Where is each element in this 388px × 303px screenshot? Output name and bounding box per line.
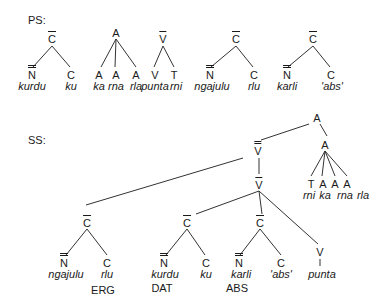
ps3-t-word: rni [170, 81, 182, 92]
ps3-v-word: punta [141, 81, 169, 92]
ss-verb-v: V [316, 247, 323, 258]
ps4-root: C [232, 34, 240, 45]
ps4-c-word: rlu [248, 81, 260, 92]
ps5-root: C [309, 34, 317, 45]
ss-affix-t-word: rni [303, 190, 315, 201]
ps3-root: V [159, 34, 166, 45]
ps-label: PS: [28, 14, 46, 26]
ss-abs-c-word: 'abs' [270, 269, 292, 280]
tree-edges [0, 0, 388, 303]
ss-erg-cbar: C [83, 218, 91, 229]
ss-abs-n-word: karli [231, 269, 251, 280]
ss-label: SS: [28, 134, 46, 146]
ss-root-a: A [313, 113, 320, 124]
ss-dat-c-word: ku [200, 269, 212, 280]
ps1-c-word: ku [65, 81, 77, 92]
ss-a-inner: A [321, 140, 328, 151]
ps2-root: A [112, 28, 119, 39]
ss-erg-n-word: ngajulu [48, 269, 83, 280]
ps2-a1-word: ka [93, 81, 105, 92]
ss-affix-a3: A [343, 179, 350, 190]
ps4-n-word: ngajulu [194, 81, 229, 92]
ss-dat-case: DAT [151, 283, 172, 294]
ss-erg-c-word: rlu [101, 269, 113, 280]
ss-verb-word: punta [308, 269, 336, 280]
ss-vbar2: V [254, 146, 261, 157]
ss-erg-case: ERG [91, 285, 115, 296]
ps2-a2-word: rna [108, 81, 124, 92]
ps1-n-word: kurdu [18, 81, 46, 92]
ss-dat-n-word: kurdu [151, 269, 179, 280]
ss-vbar1: V [255, 180, 262, 191]
ps5-n-word: karli [277, 81, 297, 92]
ss-abs-cbar: C [256, 218, 264, 229]
ss-affix-a2-word: rna [337, 190, 353, 201]
ss-affix-a3-word: rla [357, 190, 369, 201]
ss-dat-cbar: C [183, 218, 191, 229]
ps5-c-word: 'abs' [321, 81, 343, 92]
ss-affix-a1-word: ka [319, 190, 331, 201]
ps1-root: C [48, 34, 56, 45]
ss-abs-case: ABS [226, 283, 248, 294]
